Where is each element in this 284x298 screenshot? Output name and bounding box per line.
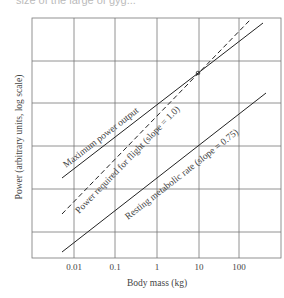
grid [32, 18, 281, 258]
line-power-required-for-flight [62, 20, 250, 214]
x-tick-label: 0.1 [109, 262, 120, 272]
line-maximum-power-output [62, 23, 263, 178]
x-tick-label: 100 [232, 262, 246, 272]
x-axis-title: Body mass (kg) [127, 278, 187, 289]
plot-frame [32, 18, 281, 258]
x-tick-labels: 0.01 0.1 1 10 100 [66, 262, 246, 272]
x-tick-label: 10 [195, 262, 205, 272]
y-axis-title: Power (arbitrary units, log scale) [14, 75, 25, 200]
x-tick-label: 0.01 [66, 262, 82, 272]
chart: Maximum power output Power required for … [0, 0, 284, 298]
x-tick-label: 1 [155, 262, 160, 272]
